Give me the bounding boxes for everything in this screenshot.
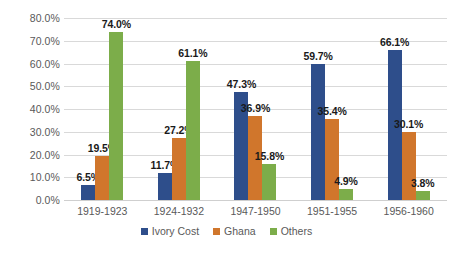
x-axis-tick-label: 1947-1950 bbox=[217, 202, 294, 222]
legend-label: Ghana bbox=[224, 225, 256, 237]
bar-groups: 6.5%19.5%74.0%11.7%27.2%61.1%47.3%36.9%1… bbox=[64, 18, 447, 200]
bar-group-bars: 6.5%19.5%74.0% bbox=[64, 18, 141, 200]
bar-slot: 6.5% bbox=[81, 18, 95, 200]
y-axis-tick-label: 50.0% bbox=[30, 80, 60, 92]
y-axis-tick-label: 10.0% bbox=[30, 171, 60, 183]
legend-swatch-icon bbox=[141, 228, 148, 235]
bar[interactable] bbox=[172, 138, 186, 200]
bar-slot: 36.9% bbox=[248, 18, 262, 200]
bar-slot: 11.7% bbox=[158, 18, 172, 200]
bar-group-bars: 47.3%36.9%15.8% bbox=[217, 18, 294, 200]
bar-value-label: 3.8% bbox=[411, 177, 435, 189]
bar-value-label: 15.8% bbox=[255, 150, 284, 162]
x-axis-tick-label: 1919-1923 bbox=[64, 202, 141, 222]
bar[interactable] bbox=[262, 164, 276, 200]
legend-item[interactable]: Ghana bbox=[213, 225, 256, 237]
bar[interactable] bbox=[311, 64, 325, 200]
legend-swatch-icon bbox=[213, 228, 220, 235]
legend-item[interactable]: Ivory Cost bbox=[141, 225, 199, 237]
bar-slot: 3.8% bbox=[416, 18, 430, 200]
y-axis-tick-label: 70.0% bbox=[30, 35, 60, 47]
gridline bbox=[64, 200, 447, 201]
bar-slot: 15.8% bbox=[262, 18, 276, 200]
bar-group-bars: 66.1%30.1%3.8% bbox=[370, 18, 447, 200]
bar[interactable] bbox=[95, 156, 109, 200]
legend-label: Others bbox=[281, 225, 313, 237]
bar[interactable] bbox=[81, 185, 95, 200]
y-axis-tick-label: 20.0% bbox=[30, 149, 60, 161]
x-axis: 1919-19231924-19321947-19501951-19551956… bbox=[64, 202, 447, 222]
bar-slot: 4.9% bbox=[339, 18, 353, 200]
legend-item[interactable]: Others bbox=[270, 225, 313, 237]
bar-chart: 0.0%10.0%20.0%30.0%40.0%50.0%60.0%70.0%8… bbox=[0, 0, 453, 255]
bar-group: 11.7%27.2%61.1% bbox=[141, 18, 218, 200]
y-axis-tick-label: 40.0% bbox=[30, 103, 60, 115]
y-axis-tick-label: 60.0% bbox=[30, 58, 60, 70]
bar-group: 6.5%19.5%74.0% bbox=[64, 18, 141, 200]
bar-group: 66.1%30.1%3.8% bbox=[370, 18, 447, 200]
bar-slot: 74.0% bbox=[109, 18, 123, 200]
bar-group-bars: 59.7%35.4%4.9% bbox=[294, 18, 371, 200]
bar[interactable] bbox=[158, 173, 172, 200]
bar[interactable] bbox=[339, 189, 353, 200]
bar[interactable] bbox=[109, 32, 123, 200]
legend-swatch-icon bbox=[270, 228, 277, 235]
bar-group-bars: 11.7%27.2%61.1% bbox=[141, 18, 218, 200]
bar[interactable] bbox=[402, 132, 416, 200]
bar-value-label: 74.0% bbox=[102, 18, 131, 30]
legend: Ivory CostGhanaOthers bbox=[0, 225, 453, 237]
x-axis-tick-label: 1951-1955 bbox=[294, 202, 371, 222]
bar-slot: 30.1% bbox=[402, 18, 416, 200]
bar-group: 59.7%35.4%4.9% bbox=[294, 18, 371, 200]
bar-group: 47.3%36.9%15.8% bbox=[217, 18, 294, 200]
y-axis-tick-label: 30.0% bbox=[30, 126, 60, 138]
bar[interactable] bbox=[325, 119, 339, 200]
plot-area: 6.5%19.5%74.0%11.7%27.2%61.1%47.3%36.9%1… bbox=[64, 18, 447, 200]
bar-slot: 66.1% bbox=[388, 18, 402, 200]
bar[interactable] bbox=[416, 191, 430, 200]
y-axis: 0.0%10.0%20.0%30.0%40.0%50.0%60.0%70.0%8… bbox=[0, 18, 60, 200]
y-axis-tick-label: 80.0% bbox=[30, 12, 60, 24]
bar-value-label: 4.9% bbox=[334, 175, 358, 187]
bar-slot: 61.1% bbox=[186, 18, 200, 200]
bar-slot: 35.4% bbox=[325, 18, 339, 200]
y-axis-tick-label: 0.0% bbox=[36, 194, 60, 206]
bar-slot: 27.2% bbox=[172, 18, 186, 200]
x-axis-tick-label: 1924-1932 bbox=[141, 202, 218, 222]
bar-value-label: 61.1% bbox=[178, 47, 207, 59]
bar[interactable] bbox=[186, 61, 200, 200]
bar-slot: 19.5% bbox=[95, 18, 109, 200]
legend-label: Ivory Cost bbox=[152, 225, 199, 237]
x-axis-tick-label: 1956-1960 bbox=[370, 202, 447, 222]
